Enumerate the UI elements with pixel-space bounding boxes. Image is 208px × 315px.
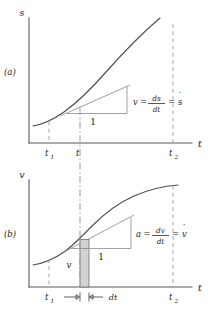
panel-a-tick-t1: t 1 <box>45 148 54 160</box>
panel-b-eq-numerator: dv <box>156 226 166 235</box>
panel-b-eq-equals-2: = <box>172 229 179 239</box>
panel-a-tick-t2-base: t <box>169 148 173 158</box>
panel-a-tick-t2: t 2 <box>169 148 179 160</box>
panel-a-y-axis-label: s <box>20 7 25 18</box>
panel-a-tick-t: t <box>76 148 80 158</box>
panel-a-tick-t2-sub: 2 <box>174 154 179 160</box>
panel-a-slope-base-label: 1 <box>90 117 96 127</box>
panel-b-tick-t2: t 2 <box>169 292 179 304</box>
panel-a-eq-numerator: ds <box>152 94 161 103</box>
panel-a-curve <box>33 18 160 126</box>
panel-b-eq-lhs: a <box>136 229 141 239</box>
panel-b-y-axis-label: v <box>19 169 25 180</box>
figure-svg: s t (a) t 1 t t 2 1 v = ds dt = s ˙ <box>0 0 208 315</box>
panel-a-eq-rhs-dot-accent: ˙ <box>178 91 182 101</box>
panel-b-tick-t2-base: t <box>169 292 173 302</box>
panel-a-label: (a) <box>4 67 16 77</box>
panel-b-curve <box>33 185 178 265</box>
panel-a-eq-equals-1: = <box>140 97 147 107</box>
panel-b-eq-denominator: dt <box>157 237 165 246</box>
panel-b: v t (b) t 1 t 2 v 1 dt <box>4 169 202 304</box>
panel-a-derivative-equation: v = ds dt = s ˙ <box>133 91 183 114</box>
panel-b-x-axis-label: t <box>198 282 202 293</box>
panel-b-slope-base-label: 1 <box>98 252 104 262</box>
panel-b-tick-t1-base: t <box>45 292 49 302</box>
panel-b-derivative-equation: a = dv dt = v ˙ <box>136 223 187 246</box>
panel-a-tick-t1-base: t <box>45 148 49 158</box>
panel-b-strip-value-label: v <box>67 260 72 270</box>
panel-b-tick-t1-sub: 1 <box>51 298 55 304</box>
panel-b-shaded-strip <box>80 240 89 288</box>
panel-a-eq-denominator: dt <box>153 105 161 114</box>
panel-a-tick-t1-sub: 1 <box>51 154 55 160</box>
physics-figure: s t (a) t 1 t t 2 1 v = ds dt = s ˙ <box>0 0 208 315</box>
panel-b-eq-rhs-dot-accent: ˙ <box>182 223 186 233</box>
panel-b-tick-t2-sub: 2 <box>174 298 179 304</box>
panel-b-dt-label: dt <box>109 292 118 302</box>
panel-a-x-axis-label: t <box>198 138 202 149</box>
panel-b-eq-equals-1: = <box>144 229 151 239</box>
panel-b-dt-dimension: dt <box>64 292 118 302</box>
panel-b-tangent-line <box>64 215 134 252</box>
panel-b-label: (b) <box>4 229 16 239</box>
panel-b-tick-t1: t 1 <box>45 292 54 304</box>
panel-a: s t (a) t 1 t t 2 1 v = ds dt = s ˙ <box>4 7 202 160</box>
panel-a-eq-lhs: v <box>133 97 138 107</box>
panel-a-tangent-line <box>60 85 130 116</box>
panel-a-eq-equals-2: = <box>168 97 175 107</box>
